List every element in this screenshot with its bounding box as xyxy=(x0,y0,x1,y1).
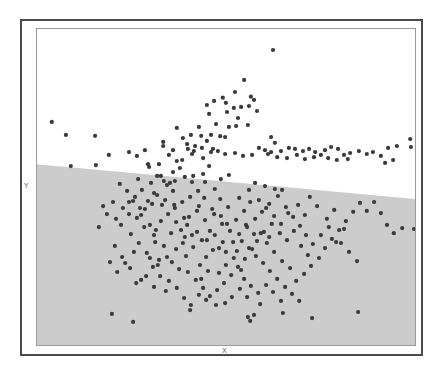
data-point xyxy=(131,320,135,324)
data-point xyxy=(290,292,294,296)
data-point xyxy=(114,217,118,221)
data-point xyxy=(128,266,132,270)
data-point xyxy=(189,303,193,307)
data-point xyxy=(400,226,404,230)
data-point xyxy=(186,147,190,151)
data-point xyxy=(265,241,269,245)
data-point xyxy=(153,240,157,244)
data-point xyxy=(195,230,199,234)
data-point xyxy=(254,254,258,258)
data-point xyxy=(184,254,188,258)
data-point xyxy=(201,286,205,290)
data-point xyxy=(143,148,147,152)
data-point xyxy=(171,189,175,193)
data-point xyxy=(150,202,154,206)
data-point xyxy=(325,217,329,221)
data-point xyxy=(332,208,336,212)
data-point xyxy=(181,241,185,245)
data-point xyxy=(188,195,192,199)
data-point xyxy=(271,290,275,294)
data-point xyxy=(228,229,232,233)
data-point xyxy=(215,288,219,292)
data-point xyxy=(301,149,305,153)
data-point xyxy=(162,179,166,183)
data-point xyxy=(246,315,250,319)
data-point xyxy=(347,250,351,254)
data-point xyxy=(247,188,251,192)
data-point xyxy=(155,174,159,178)
data-point xyxy=(227,125,231,129)
data-point xyxy=(281,311,285,315)
data-point xyxy=(175,159,179,163)
data-point xyxy=(336,147,340,151)
y-axis-label: Y xyxy=(24,182,28,190)
data-point xyxy=(273,187,277,191)
data-point xyxy=(237,232,241,236)
data-point xyxy=(197,125,201,129)
data-point xyxy=(199,134,203,138)
data-point xyxy=(358,201,362,205)
data-point xyxy=(275,155,279,159)
data-point xyxy=(158,274,162,278)
data-point xyxy=(248,319,252,323)
data-point xyxy=(165,183,169,187)
data-point xyxy=(223,152,227,156)
data-point xyxy=(295,153,299,157)
data-point xyxy=(280,188,284,192)
decision-region-below xyxy=(37,164,416,346)
data-point xyxy=(263,148,267,152)
data-point xyxy=(339,241,343,245)
data-point xyxy=(334,240,338,244)
data-point xyxy=(253,181,257,185)
data-point xyxy=(240,239,244,243)
data-point xyxy=(159,219,163,223)
data-point xyxy=(242,277,246,281)
data-point xyxy=(385,223,389,227)
data-point xyxy=(157,258,161,262)
data-point xyxy=(225,110,229,114)
data-point xyxy=(224,101,228,105)
x-axis-label: X xyxy=(222,347,227,355)
data-point xyxy=(326,156,330,160)
data-point xyxy=(127,200,131,204)
data-point xyxy=(269,135,273,139)
data-point xyxy=(167,279,171,283)
data-point xyxy=(379,154,383,158)
data-point xyxy=(151,265,155,269)
data-point xyxy=(346,157,350,161)
data-point xyxy=(247,104,251,108)
data-point xyxy=(205,238,209,242)
data-point xyxy=(193,144,197,148)
data-point xyxy=(319,153,323,157)
data-point xyxy=(137,241,141,245)
data-point xyxy=(232,256,236,260)
data-point xyxy=(319,233,323,237)
data-point xyxy=(94,163,98,167)
data-point xyxy=(234,218,238,222)
data-point xyxy=(329,145,333,149)
data-point xyxy=(257,146,261,150)
data-point xyxy=(266,152,270,156)
data-point xyxy=(131,199,135,203)
data-point xyxy=(149,181,153,185)
data-point xyxy=(93,134,97,138)
data-point xyxy=(182,216,186,220)
data-point xyxy=(211,248,215,252)
data-point xyxy=(231,240,235,244)
data-point xyxy=(166,212,170,216)
data-point xyxy=(225,222,229,226)
data-point xyxy=(196,189,200,193)
data-point xyxy=(296,203,300,207)
data-point xyxy=(115,270,119,274)
data-point xyxy=(177,267,181,271)
data-point xyxy=(249,284,253,288)
data-point xyxy=(315,204,319,208)
data-point xyxy=(255,109,259,113)
data-point xyxy=(139,278,143,282)
plot-area xyxy=(36,28,416,346)
data-point xyxy=(391,158,395,162)
data-point xyxy=(50,120,54,124)
data-point xyxy=(239,105,243,109)
data-point xyxy=(294,279,298,283)
data-point xyxy=(156,263,160,267)
